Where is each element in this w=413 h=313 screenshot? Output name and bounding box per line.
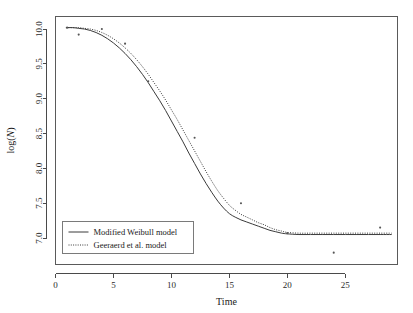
chart-figure: 7.07.58.08.59.09.510.0 0510152025 Modifi… xyxy=(0,0,413,313)
chart-legend[interactable]: Modified Weibull modelGeeraerd et al. mo… xyxy=(63,222,194,254)
chart-background xyxy=(0,0,413,313)
data-point xyxy=(78,34,80,36)
x-tick-label: 20 xyxy=(283,280,293,290)
y-axis-title: log(N) xyxy=(5,127,17,153)
legend-label: Modified Weibull model xyxy=(94,227,178,237)
y-tick-label: 7.5 xyxy=(35,197,45,209)
data-point xyxy=(194,137,196,139)
x-tick-label: 25 xyxy=(341,280,351,290)
data-point xyxy=(379,227,381,229)
y-tick-label: 9.0 xyxy=(35,93,45,105)
data-point xyxy=(240,202,242,204)
x-tick-label: 15 xyxy=(225,280,235,290)
legend-label: Geeraerd et al. model xyxy=(94,240,168,250)
data-point xyxy=(286,232,288,234)
chart-plot-area: 7.07.58.08.59.09.510.0 0510152025 Modifi… xyxy=(0,0,413,313)
x-tick-label: 5 xyxy=(111,280,116,290)
data-point xyxy=(66,27,68,29)
svg-text:log(N): log(N) xyxy=(5,127,17,153)
x-axis-title: Time xyxy=(216,296,237,307)
x-tick-label: 0 xyxy=(53,280,58,290)
y-tick-label: 9.5 xyxy=(35,58,45,70)
x-tick-label: 10 xyxy=(167,280,177,290)
y-tick-label: 8.5 xyxy=(35,127,45,139)
y-tick-label: 10.0 xyxy=(35,21,45,37)
data-point xyxy=(124,43,126,45)
data-point xyxy=(101,28,103,30)
y-tick-label: 8.0 xyxy=(35,162,45,174)
data-point xyxy=(147,80,149,82)
data-point xyxy=(333,252,335,254)
y-tick-label: 7.0 xyxy=(35,232,45,244)
